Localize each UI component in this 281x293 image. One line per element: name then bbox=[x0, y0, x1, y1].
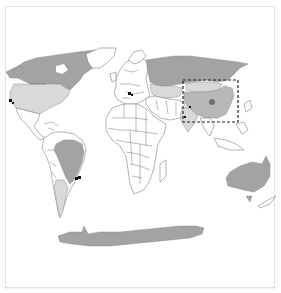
antarctica bbox=[58, 226, 204, 246]
marker-europe-2 bbox=[131, 94, 133, 96]
marker-us-west-2 bbox=[12, 102, 14, 104]
marker-us-west bbox=[9, 99, 12, 102]
marker-brazil-se bbox=[75, 177, 78, 180]
southeast-asia bbox=[200, 118, 214, 136]
australia bbox=[226, 156, 270, 192]
madagascar bbox=[160, 160, 166, 182]
world-map bbox=[0, 0, 281, 293]
marker-brazil-se-2 bbox=[78, 176, 81, 179]
europe bbox=[114, 58, 150, 104]
marker-south-asia bbox=[189, 106, 191, 108]
marker-europe bbox=[128, 92, 131, 95]
kazakhstan bbox=[150, 84, 182, 98]
marker-south-asia-2 bbox=[184, 116, 186, 118]
focus-dot bbox=[209, 99, 215, 105]
russia bbox=[146, 56, 248, 86]
